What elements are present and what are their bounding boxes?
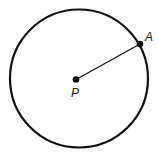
- point-p-label: P: [71, 86, 79, 100]
- point-p-dot: [73, 76, 80, 83]
- circle-diagram: P A: [0, 0, 159, 157]
- point-a-label: A: [144, 30, 153, 44]
- background: [0, 0, 159, 157]
- point-a-dot: [137, 41, 144, 48]
